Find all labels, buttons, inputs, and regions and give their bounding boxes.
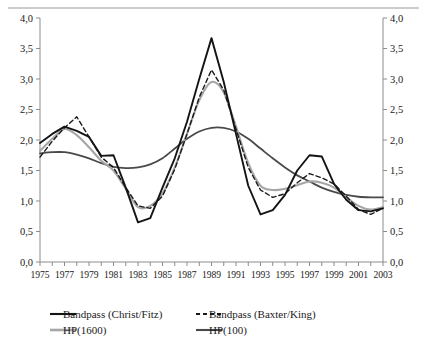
series-line-bandpass_christ_fitz	[40, 38, 383, 222]
y-tick-label-left: 3,5	[20, 43, 33, 54]
y-tick-label-left: 1,0	[20, 196, 33, 207]
legend-label: HP(100)	[209, 324, 247, 337]
series-layer	[40, 38, 383, 222]
y-tick-label-left: 4,0	[20, 13, 33, 24]
x-tick-label: 2001	[349, 269, 368, 280]
x-tick-label: 1987	[177, 269, 196, 280]
x-tick-label: 1975	[30, 269, 49, 280]
x-tick-label: 1979	[79, 269, 98, 280]
y-tick-label-left: 1,5	[20, 165, 33, 176]
legend-label: HP(1600)	[63, 324, 107, 337]
y-tick-label-right: 0,5	[390, 226, 403, 237]
y-tick-label-right: 2,0	[390, 135, 403, 146]
y-tick-label-left: 3,0	[20, 74, 33, 85]
legend-item: HP(100)	[196, 324, 247, 337]
x-tick-label: 1981	[104, 269, 123, 280]
line-chart-svg: 0,00,51,01,52,02,53,03,54,0 0,00,51,01,5…	[0, 0, 427, 346]
y-tick-label-left: 0,0	[20, 257, 33, 268]
x-tick-label: 1991	[226, 269, 245, 280]
legend-label: Bandpass (Christ/Fitz)	[63, 308, 163, 321]
y-tick-label-right: 3,0	[390, 74, 403, 85]
x-tick-label: 2003	[373, 269, 392, 280]
y-tick-label-left: 2,0	[20, 135, 33, 146]
chart-legend: Bandpass (Christ/Fitz)Bandpass (Baxter/K…	[50, 308, 316, 337]
y-tick-label-right: 0,0	[390, 257, 403, 268]
legend-item: Bandpass (Baxter/King)	[196, 308, 316, 321]
legend-label: Bandpass (Baxter/King)	[209, 308, 316, 321]
y-tick-label-left: 0,5	[20, 226, 33, 237]
chart-figure: 0,00,51,01,52,02,53,03,54,0 0,00,51,01,5…	[0, 0, 427, 346]
y-tick-label-right: 4,0	[390, 13, 403, 24]
x-axis: 1975197719791981198319851987198919911993…	[30, 262, 392, 280]
y-tick-label-right: 3,5	[390, 43, 403, 54]
x-tick-label: 1993	[251, 269, 270, 280]
legend-item: Bandpass (Christ/Fitz)	[50, 308, 163, 321]
x-tick-label: 1995	[275, 269, 294, 280]
x-tick-label: 1989	[202, 269, 221, 280]
legend-item: HP(1600)	[50, 324, 107, 337]
x-tick-label: 1983	[128, 269, 147, 280]
y-tick-label-right: 2,5	[390, 104, 403, 115]
x-tick-label: 1977	[55, 269, 74, 280]
x-tick-label: 1999	[324, 269, 343, 280]
y-axis-left: 0,00,51,01,52,02,53,03,54,0	[20, 13, 40, 268]
y-tick-label-right: 1,5	[390, 165, 403, 176]
y-axis-right: 0,00,51,01,52,02,53,03,54,0	[383, 13, 403, 268]
x-tick-label: 1997	[300, 269, 319, 280]
y-tick-label-left: 2,5	[20, 104, 33, 115]
x-tick-label: 1985	[153, 269, 172, 280]
y-tick-label-right: 1,0	[390, 196, 403, 207]
